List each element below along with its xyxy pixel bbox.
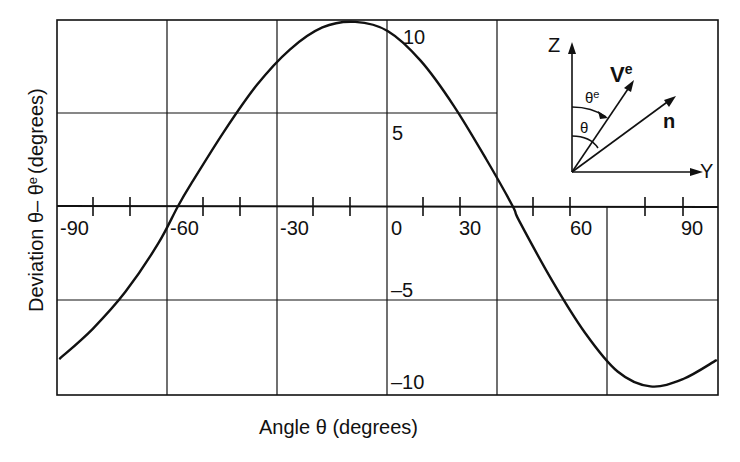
x-axis-zero-line bbox=[57, 206, 718, 207]
y-axis-label: Deviation θ– θe(degrees) bbox=[25, 88, 47, 312]
n-arrow-icon bbox=[664, 96, 676, 107]
theta-arc bbox=[572, 136, 598, 148]
inset-theta-label: θ bbox=[580, 119, 588, 136]
y-tick-labels: 10 5 –5 –10 bbox=[391, 26, 425, 393]
y-tick-label: 5 bbox=[392, 122, 403, 144]
n-vector-line bbox=[572, 100, 670, 172]
x-tick-label: 60 bbox=[570, 217, 592, 239]
ve-arrow-icon bbox=[624, 80, 634, 92]
x-tick-label: -90 bbox=[60, 217, 89, 239]
inset-ve-label: Ve bbox=[610, 61, 633, 87]
z-arrow-icon bbox=[568, 42, 576, 54]
inset-theta-e-label: θe bbox=[585, 88, 599, 106]
y-tick-label: –5 bbox=[391, 279, 413, 301]
x-tick-label: 0 bbox=[391, 217, 402, 239]
inset-n-label: n bbox=[663, 110, 675, 132]
x-tick-label: -60 bbox=[170, 217, 199, 239]
inset-z-label: Z bbox=[548, 34, 560, 56]
inset-labels: Z Y Ve n θe θ bbox=[548, 34, 713, 182]
chart: -90 -60 -30 0 30 60 90 10 5 –5 –10 Z Y V… bbox=[0, 0, 740, 462]
x-tick-label: 30 bbox=[459, 217, 481, 239]
y-tick-label: –10 bbox=[391, 371, 424, 393]
x-tick-label: 90 bbox=[681, 217, 703, 239]
x-tick-label: -30 bbox=[280, 217, 309, 239]
x-axis-label: Angle θ (degrees) bbox=[259, 416, 418, 438]
inset-diagram bbox=[568, 42, 703, 176]
theta-e-arrowhead-icon bbox=[598, 111, 608, 119]
inset-y-label: Y bbox=[700, 160, 713, 182]
